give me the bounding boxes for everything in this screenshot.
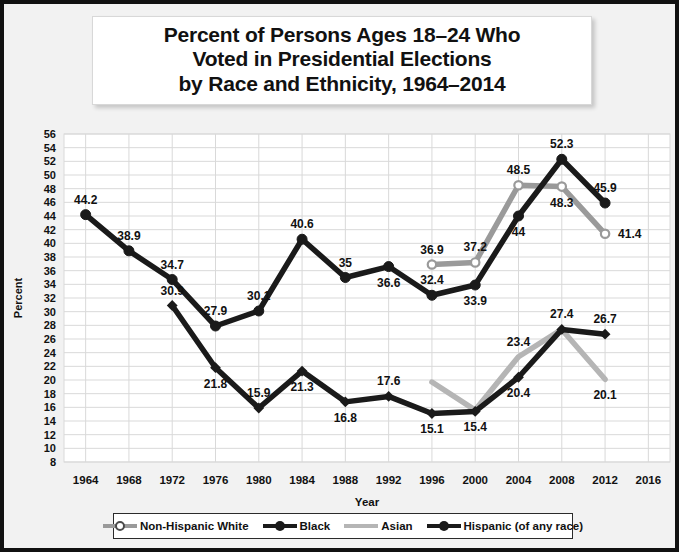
data-value-label: 15.4 <box>464 420 488 434</box>
data-value-label: 20.4 <box>507 386 531 400</box>
data-value-label: 21.3 <box>290 380 314 394</box>
data-value-label: 33.9 <box>464 294 488 308</box>
chart-title: Percent of Persons Ages 18–24 Who Voted … <box>92 16 592 105</box>
data-value-label: 37.2 <box>464 240 488 254</box>
x-tick-label: 1996 <box>419 474 445 486</box>
x-tick-label: 1984 <box>289 474 315 486</box>
data-point-marker <box>124 246 134 256</box>
x-tick-label: 1972 <box>159 474 185 486</box>
data-value-label: 36.6 <box>377 276 401 290</box>
data-value-label: 36.9 <box>420 243 444 257</box>
data-value-label: 45.9 <box>593 181 617 195</box>
y-tick-label: 46 <box>44 196 56 208</box>
y-tick-label: 28 <box>44 319 56 331</box>
data-value-label: 44 <box>512 225 526 239</box>
x-tick-label: 2008 <box>549 474 575 486</box>
title-line-3: by Race and Ethnicity, 1964–2014 <box>97 72 587 96</box>
y-tick-label: 24 <box>44 347 57 359</box>
data-value-label: 15.9 <box>247 386 271 400</box>
x-tick-label: 2016 <box>636 474 662 486</box>
data-point-marker <box>297 234 307 244</box>
data-point-marker <box>601 230 609 238</box>
y-tick-label: 52 <box>44 155 56 167</box>
legend-line <box>344 524 378 528</box>
data-value-label: 44.2 <box>74 193 98 207</box>
x-axis-title: Year <box>355 496 380 508</box>
data-point-marker <box>471 258 479 266</box>
x-tick-label: 1980 <box>246 474 272 486</box>
legend-marker <box>439 521 449 531</box>
data-point-marker <box>428 260 436 268</box>
x-tick-label: 1992 <box>376 474 402 486</box>
data-value-label: 23.4 <box>507 335 531 349</box>
legend-swatch-icon <box>344 520 378 532</box>
data-point-marker <box>211 321 221 331</box>
legend-label: Black <box>300 520 331 532</box>
data-point-marker <box>340 273 350 283</box>
legend-swatch-icon <box>427 520 461 532</box>
x-tick-label: 2012 <box>592 474 618 486</box>
data-point-marker <box>558 182 566 190</box>
data-value-label: 27.4 <box>550 307 574 321</box>
y-tick-label: 26 <box>44 333 56 345</box>
chart-legend: Non-Hispanic WhiteBlackAsianHispanic (of… <box>113 513 573 539</box>
y-axis-title: Percent <box>12 277 24 318</box>
x-tick-label: 1964 <box>73 474 99 486</box>
line-chart-svg: 8101214161820222426283032343638404244464… <box>4 122 675 552</box>
legend-label: Asian <box>381 520 412 532</box>
data-value-label: 41.4 <box>618 227 642 241</box>
data-point-marker <box>427 290 437 300</box>
data-value-label: 34.7 <box>161 258 185 272</box>
data-value-label: 32.4 <box>420 273 444 287</box>
y-tick-label: 16 <box>44 401 56 413</box>
y-tick-label: 32 <box>44 292 56 304</box>
legend-item-black[interactable]: Black <box>263 520 331 532</box>
data-value-label: 26.7 <box>593 312 617 326</box>
data-point-marker <box>600 198 610 208</box>
data-point-marker <box>514 181 522 189</box>
x-tick-label: 1988 <box>333 474 359 486</box>
legend-item-hispanic-of-any-race[interactable]: Hispanic (of any race) <box>427 520 584 532</box>
y-tick-label: 30 <box>44 306 56 318</box>
y-tick-label: 50 <box>44 169 56 181</box>
x-tick-label: 2000 <box>462 474 488 486</box>
data-value-label: 20.1 <box>593 388 617 402</box>
y-tick-label: 38 <box>44 251 56 263</box>
data-point-marker <box>557 154 567 164</box>
legend-swatch-icon <box>263 520 297 532</box>
y-tick-label: 10 <box>44 442 56 454</box>
x-tick-label: 1976 <box>203 474 229 486</box>
y-tick-label: 36 <box>44 265 56 277</box>
y-tick-label: 22 <box>44 360 56 372</box>
legend-label: Hispanic (of any race) <box>464 520 584 532</box>
y-tick-label: 12 <box>44 429 56 441</box>
y-tick-label: 56 <box>44 128 56 140</box>
x-tick-label: 1968 <box>116 474 142 486</box>
data-value-label: 30.1 <box>247 289 271 303</box>
data-point-marker <box>254 306 264 316</box>
data-value-label: 30.9 <box>161 284 185 298</box>
data-value-label: 52.3 <box>550 137 574 151</box>
y-tick-label: 34 <box>44 278 57 290</box>
y-tick-label: 18 <box>44 388 56 400</box>
data-value-label: 48.5 <box>507 163 531 177</box>
data-value-label: 21.8 <box>204 377 228 391</box>
y-tick-label: 8 <box>50 456 56 468</box>
legend-swatch-icon <box>103 520 137 532</box>
legend-marker <box>115 521 125 531</box>
y-tick-label: 44 <box>44 210 57 222</box>
chart-plot-area: 8101214161820222426283032343638404244464… <box>4 122 675 552</box>
title-line-2: Voted in Presidential Elections <box>97 47 587 71</box>
data-value-label: 48.3 <box>550 196 574 210</box>
legend-label: Non-Hispanic White <box>140 520 249 532</box>
legend-marker <box>275 521 285 531</box>
legend-item-non-hispanic-white[interactable]: Non-Hispanic White <box>103 520 249 532</box>
title-line-1: Percent of Persons Ages 18–24 Who <box>97 23 587 47</box>
x-tick-label: 2004 <box>506 474 532 486</box>
y-tick-label: 48 <box>44 183 56 195</box>
data-point-marker <box>470 280 480 290</box>
data-value-label: 16.8 <box>334 411 358 425</box>
y-tick-label: 54 <box>44 142 57 154</box>
data-value-label: 15.1 <box>420 422 444 436</box>
legend-item-asian[interactable]: Asian <box>344 520 412 532</box>
